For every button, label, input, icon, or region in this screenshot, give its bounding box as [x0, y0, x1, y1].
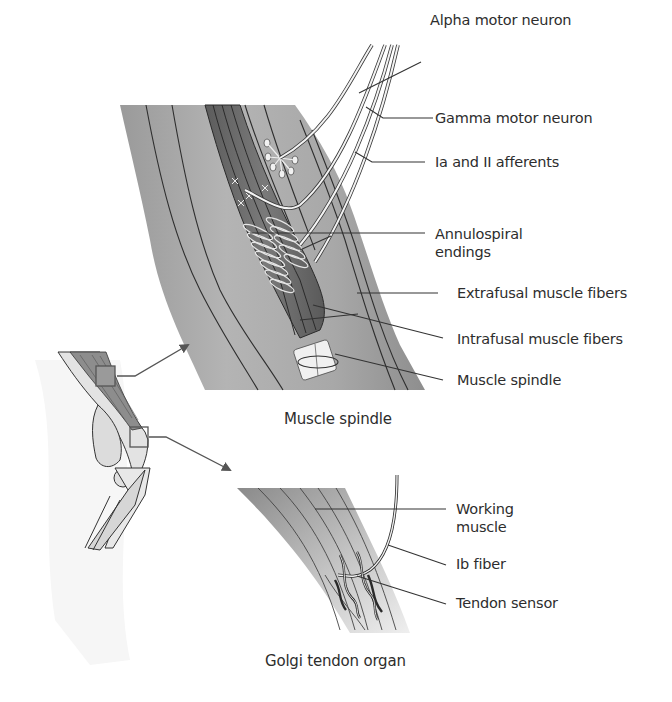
knee-illustration [35, 345, 230, 665]
figure-artwork [0, 0, 672, 702]
label-ib-fiber: Ib fiber [456, 555, 506, 573]
muscle-spindle-illustration [120, 45, 425, 390]
label-intrafusal-muscle-fibers: Intrafusal muscle fibers [457, 330, 623, 348]
spindle-callout-box [96, 366, 115, 386]
label-working-muscle: Working muscle [456, 500, 546, 536]
label-ia-ii-afferents: Ia and II afferents [435, 153, 559, 171]
caption-golgi-tendon-organ: Golgi tendon organ [265, 652, 406, 670]
label-gamma-motor-neuron: Gamma motor neuron [435, 109, 592, 127]
label-extrafusal-muscle-fibers: Extrafusal muscle fibers [457, 284, 627, 302]
label-annulospiral-endings: Annulospiral endings [435, 225, 565, 261]
label-alpha-motor-neuron: Alpha motor neuron [430, 11, 571, 29]
label-tendon-sensor: Tendon sensor [456, 594, 558, 612]
label-muscle-spindle: Muscle spindle [457, 371, 561, 389]
golgi-tendon-illustration [237, 475, 410, 633]
caption-muscle-spindle: Muscle spindle [284, 410, 392, 428]
